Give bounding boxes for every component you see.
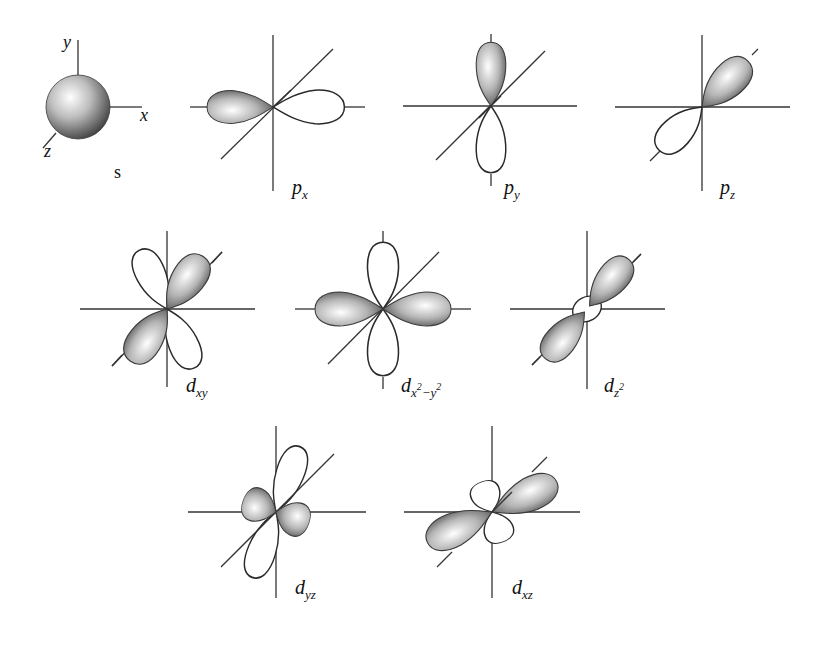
s-sphere — [46, 75, 110, 139]
orbital-py — [403, 34, 577, 186]
orbital-label-dxy: dxy — [186, 374, 208, 400]
orbital-dz2 — [510, 231, 665, 389]
orbital-s: y x z s — [43, 32, 148, 182]
orbital-px — [190, 35, 365, 191]
orbital-label-dx2y2: dx2−y2 — [401, 374, 441, 400]
orbital-label-dz2: dz2 — [604, 374, 624, 400]
orbital-label-dyz: dyz — [295, 576, 316, 602]
orbital-dx2y2 — [295, 231, 471, 389]
orbital-diagram: y x z s px py pz — [0, 0, 826, 646]
orbital-dxz — [404, 426, 580, 598]
orbital-dxy — [80, 231, 255, 387]
x-axis-label: x — [139, 105, 148, 125]
orbital-label-px: px — [290, 176, 308, 202]
orbital-label-dxz: dxz — [512, 576, 533, 602]
orbital-pz — [615, 35, 790, 191]
orbital-label-s: s — [114, 162, 121, 182]
orbital-label-py: py — [502, 176, 520, 202]
orbital-label-pz: pz — [718, 176, 735, 202]
orbital-dyz — [188, 426, 366, 598]
z-axis-label: z — [43, 141, 51, 161]
y-axis-label: y — [61, 32, 71, 52]
